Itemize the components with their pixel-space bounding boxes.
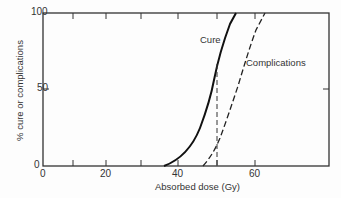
x-axis-label: Absorbed dose (Gy)	[155, 181, 240, 192]
x-tick-40: 40	[172, 168, 183, 179]
plot-frame	[43, 13, 329, 166]
cure-label: Cure	[200, 34, 221, 45]
complications-label: Complications	[246, 57, 306, 68]
chart-canvas	[0, 0, 341, 198]
y-tick-0: 0	[34, 159, 40, 170]
x-ticks	[43, 13, 329, 166]
x-tick-20: 20	[100, 168, 111, 179]
y-axis-label: % cure or complications	[14, 36, 25, 146]
x-tick-60: 60	[249, 168, 260, 179]
x-tick-0: 0	[40, 168, 46, 179]
y-tick-100: 100	[31, 6, 48, 17]
y-tick-50: 50	[37, 82, 48, 93]
